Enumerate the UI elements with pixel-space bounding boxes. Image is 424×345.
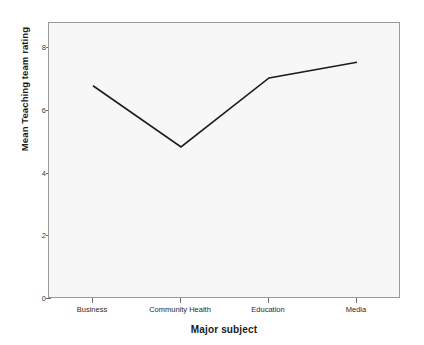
- series-polyline-mean-teaching-team-rating: [93, 62, 357, 147]
- x-tick-mark: [268, 298, 269, 303]
- x-tick-mark: [92, 298, 93, 303]
- x-tick-mark: [356, 298, 357, 303]
- x-tick-label: Media: [296, 305, 416, 314]
- y-axis-ticks: 02468: [28, 22, 46, 298]
- y-tick-label: 0: [30, 294, 46, 303]
- y-tick-label: 4: [30, 168, 46, 177]
- plot-area: [48, 22, 400, 298]
- data-line: [49, 23, 401, 299]
- x-axis-title: Major subject: [48, 324, 400, 335]
- x-tick-mark: [180, 298, 181, 303]
- chart-figure: Mean Teaching team rating 02468 Business…: [0, 0, 424, 345]
- y-tick-label: 2: [30, 231, 46, 240]
- y-tick-label: 6: [30, 105, 46, 114]
- y-tick-label: 8: [30, 43, 46, 52]
- x-axis-ticks: BusinessCommunity HealthEducationMedia: [48, 298, 400, 320]
- plot-inner: [49, 23, 399, 297]
